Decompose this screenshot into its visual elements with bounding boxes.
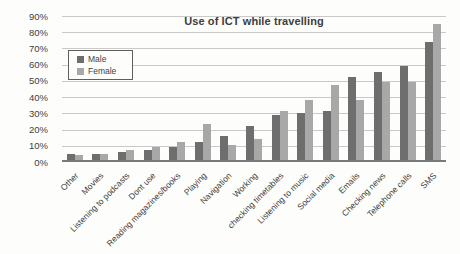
female-bar-dont-use	[152, 147, 160, 160]
y-axis-tick-label: 10%	[12, 140, 48, 151]
female-bar-other	[75, 155, 83, 160]
female-bar-emails	[356, 100, 364, 160]
ict-travel-bar-chart: Use of ICT while travelling Male Female …	[0, 0, 460, 254]
female-bar-movies	[100, 154, 108, 160]
gridline	[62, 32, 446, 33]
male-bar-playing	[195, 142, 203, 160]
female-bar-checking-timetables	[280, 111, 288, 160]
y-axis-tick-label: 80%	[12, 27, 48, 38]
legend: Male Female	[68, 50, 133, 80]
female-bar-social-media	[331, 85, 339, 160]
y-axis-tick-label: 0%	[12, 157, 48, 168]
male-bar-sms	[425, 42, 433, 160]
female-bar-working	[254, 139, 262, 160]
male-bar-listening-to-podcasts	[118, 152, 126, 160]
y-axis-tick-label: 50%	[12, 75, 48, 86]
y-axis-tick-label: 40%	[12, 92, 48, 103]
plot-area	[62, 16, 446, 162]
y-axis-tick-label: 20%	[12, 124, 48, 135]
male-bar-social-media	[323, 111, 331, 160]
legend-label-female: Female	[88, 66, 116, 76]
female-bar-listening-to-podcasts	[126, 150, 134, 160]
female-bar-checking-news	[382, 82, 390, 160]
female-bar-navigation	[228, 145, 236, 160]
male-bar-other	[67, 154, 75, 160]
male-bar-working	[246, 126, 254, 160]
legend-item-female: Female	[77, 66, 132, 76]
male-bar-telephone-calls	[400, 66, 408, 160]
female-bar-reading-magazines-books	[177, 142, 185, 160]
female-bar-playing	[203, 124, 211, 160]
male-bar-reading-magazines-books	[169, 147, 177, 160]
legend-label-male: Male	[88, 54, 106, 64]
y-axis-tick-label: 60%	[12, 59, 48, 70]
female-bar-telephone-calls	[408, 82, 416, 160]
male-bar-checking-timetables	[272, 115, 280, 160]
y-axis-tick-label: 30%	[12, 108, 48, 119]
male-bar-navigation	[220, 136, 228, 160]
chart-title: Use of ICT while travelling	[62, 15, 446, 27]
female-bar-sms	[433, 24, 441, 160]
female-series-swatch-icon	[77, 68, 84, 75]
legend-item-male: Male	[77, 54, 132, 64]
male-bar-movies	[92, 154, 100, 160]
male-bar-checking-news	[374, 72, 382, 160]
y-axis-tick-label: 90%	[12, 11, 48, 22]
male-series-swatch-icon	[77, 56, 84, 63]
male-bar-listening-to-music	[297, 113, 305, 160]
male-bar-dont-use	[144, 150, 152, 160]
y-axis-tick-label: 70%	[12, 43, 48, 54]
male-bar-emails	[348, 77, 356, 160]
female-bar-listening-to-music	[305, 100, 313, 160]
